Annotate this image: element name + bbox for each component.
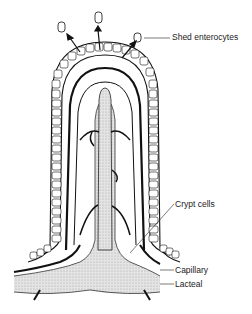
- central-lacteal: [98, 88, 112, 250]
- label-capillary: Capillary: [175, 266, 208, 275]
- label-shed-enterocytes: Shed enterocytes: [172, 33, 238, 42]
- lacteal-band: [14, 100, 160, 294]
- label-crypt-cells: Crypt cells: [175, 200, 215, 209]
- label-lacteal: Lacteal: [175, 280, 202, 289]
- villus-diagram: [0, 0, 252, 314]
